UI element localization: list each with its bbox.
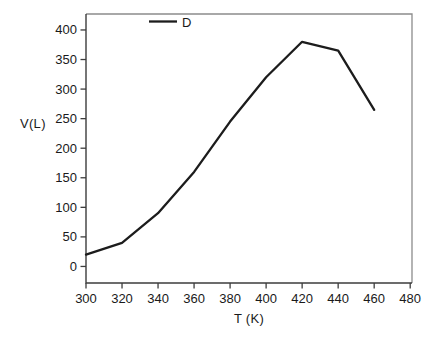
y-tick-label: 100	[55, 200, 77, 215]
plot-border-top-right	[86, 14, 412, 283]
legend-series-label: D	[182, 15, 191, 30]
x-tick-label: 340	[147, 291, 169, 306]
y-tick-label: 50	[63, 229, 77, 244]
x-tick-label: 380	[219, 291, 241, 306]
y-tick-label: 350	[55, 52, 77, 67]
x-tick-label: 400	[255, 291, 277, 306]
data-line-D	[86, 42, 374, 255]
y-tick-label: 200	[55, 141, 77, 156]
line-chart: 3003203403603804004204404604800501001502…	[0, 0, 439, 343]
x-axis-title: T (K)	[86, 311, 412, 326]
x-tick-label: 460	[363, 291, 385, 306]
chart-canvas: 3003203403603804004204404604800501001502…	[0, 0, 439, 343]
y-tick-label: 300	[55, 82, 77, 97]
y-tick-label: 250	[55, 111, 77, 126]
y-axis-title: V(L)	[20, 116, 46, 131]
y-tick-label: 400	[55, 22, 77, 37]
y-tick-label: 0	[70, 259, 77, 274]
x-tick-label: 320	[111, 291, 133, 306]
x-tick-label: 420	[291, 291, 313, 306]
x-tick-label: 360	[183, 291, 205, 306]
x-tick-label: 480	[399, 291, 421, 306]
x-tick-label: 440	[327, 291, 349, 306]
plot-border-left-bottom	[86, 14, 412, 283]
x-tick-label: 300	[75, 291, 97, 306]
y-tick-label: 150	[55, 170, 77, 185]
